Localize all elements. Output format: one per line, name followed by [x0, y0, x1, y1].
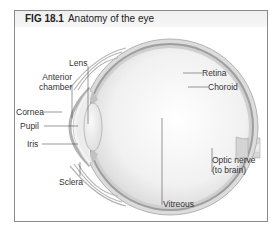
label-anterior-chamber-1: Anterior	[38, 72, 72, 82]
label-retina: Retina	[202, 68, 227, 78]
label-optic-nerve-1: Optic nerve	[212, 155, 255, 165]
label-iris: Iris	[27, 139, 38, 149]
label-choroid: Choroid	[208, 82, 238, 92]
label-optic-nerve-2: (to brain)	[212, 165, 246, 175]
label-cornea: Cornea	[16, 107, 44, 117]
label-sclera: Sclera	[59, 177, 83, 187]
label-vitreous: Vitreous	[163, 199, 194, 209]
label-lens: Lens	[69, 58, 87, 68]
label-anterior-chamber-2: chamber	[34, 82, 72, 92]
lens	[84, 103, 102, 151]
label-pupil: Pupil	[20, 121, 39, 131]
